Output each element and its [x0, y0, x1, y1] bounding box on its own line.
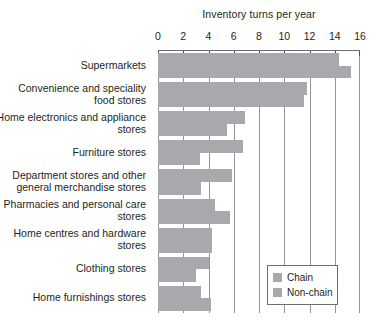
bar-chain-4 — [158, 169, 232, 182]
category-label-5: Pharmacies and personal care stores — [0, 198, 146, 222]
category-label-2: Home electronics and appliance stores — [0, 111, 146, 135]
bar-non-chain-2 — [158, 124, 227, 137]
bar-chain-2 — [158, 111, 245, 124]
chart-legend: Chain Non-chain — [267, 265, 338, 305]
legend-swatch-chain — [273, 273, 282, 282]
x-tick-label-16: 16 — [354, 30, 366, 42]
category-label-0: Supermarkets — [0, 59, 146, 71]
x-tick-label-14: 14 — [329, 30, 341, 42]
category-label-3: Furniture stores — [0, 146, 146, 158]
legend-swatch-non-chain — [273, 288, 282, 297]
category-label-4: Department stores and other general merc… — [0, 169, 146, 193]
category-label-8: Home furnishings stores — [0, 291, 146, 303]
bar-chain-7 — [158, 257, 209, 270]
bar-chain-5 — [158, 199, 215, 212]
bar-chain-8 — [158, 286, 201, 299]
bar-non-chain-5 — [158, 211, 230, 224]
bar-non-chain-3 — [158, 153, 200, 166]
chart-figure: Inventory turns per year 0246810121416 S… — [0, 0, 384, 328]
category-label-6: Home centres and hardware stores — [0, 227, 146, 251]
x-tick-label-4: 4 — [206, 30, 212, 42]
x-tick-label-8: 8 — [256, 30, 262, 42]
x-tick-label-0: 0 — [155, 30, 161, 42]
bar-non-chain-8 — [158, 298, 211, 311]
x-tick-label-12: 12 — [304, 30, 316, 42]
bar-non-chain-4 — [158, 182, 201, 195]
category-label-7: Clothing stores — [0, 262, 146, 274]
x-axis-tick-labels: 0246810121416 — [0, 30, 384, 44]
y-axis-category-labels: SupermarketsConvenience and speciality f… — [0, 50, 152, 312]
legend-item-non-chain: Non-chain — [273, 285, 332, 300]
bar-non-chain-1 — [158, 95, 304, 108]
bar-chain-0 — [158, 53, 339, 66]
legend-item-chain: Chain — [273, 270, 332, 285]
bar-chain-1 — [158, 82, 307, 95]
legend-label-non-chain: Non-chain — [287, 287, 333, 298]
legend-label-chain: Chain — [287, 272, 313, 283]
chart-title: Inventory turns per year — [158, 8, 360, 20]
bar-non-chain-7 — [158, 269, 196, 282]
bar-non-chain-0 — [158, 66, 351, 79]
bar-non-chain-6 — [158, 240, 212, 253]
x-tick-label-10: 10 — [278, 30, 290, 42]
category-label-1: Convenience and speciality food stores — [0, 82, 146, 106]
bar-chain-6 — [158, 228, 212, 241]
x-tick-label-6: 6 — [231, 30, 237, 42]
x-tick-label-2: 2 — [180, 30, 186, 42]
bar-chain-3 — [158, 140, 243, 153]
